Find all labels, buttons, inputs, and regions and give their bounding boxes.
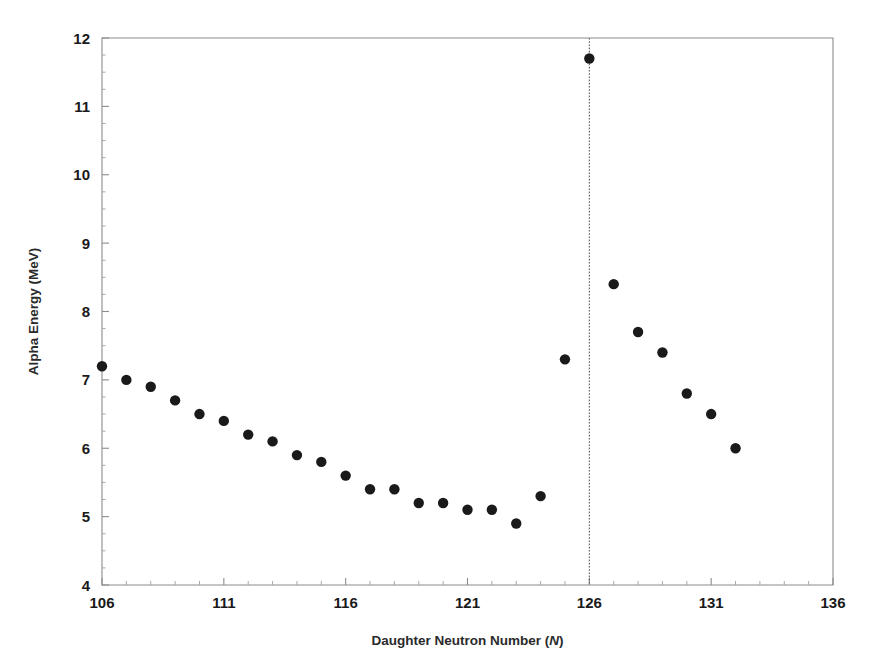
y-tick-label: 9 <box>82 235 90 252</box>
data-points-layer <box>97 53 741 528</box>
y-tick-label: 10 <box>73 166 90 183</box>
y-tick-labels: 456789101112 <box>73 30 90 594</box>
data-point <box>487 505 497 515</box>
y-axis-title: Alpha Energy (MeV) <box>26 248 41 376</box>
data-point <box>730 443 740 453</box>
data-point <box>414 498 424 508</box>
data-point <box>682 388 692 398</box>
data-point <box>365 484 375 494</box>
x-axis-title-prefix: Daughter Neutron Number ( <box>371 633 549 648</box>
y-tick-label: 4 <box>82 577 91 594</box>
y-tick-label: 5 <box>82 508 90 525</box>
x-axis-ticks <box>102 578 833 585</box>
x-axis-title: Daughter Neutron Number (N) <box>371 633 563 648</box>
x-axis-title-suffix: ) <box>559 633 564 648</box>
data-point <box>438 498 448 508</box>
x-tick-label: 121 <box>455 594 480 611</box>
y-tick-label: 12 <box>73 30 90 47</box>
data-point <box>194 409 204 419</box>
plot-border <box>102 38 833 585</box>
data-point <box>657 347 667 357</box>
alpha-energy-scatter-figure: 106111116121126131136 456789101112 Alpha… <box>0 0 885 672</box>
x-tick-label: 136 <box>820 594 845 611</box>
y-tick-label: 7 <box>82 371 90 388</box>
data-point <box>170 395 180 405</box>
data-point <box>560 354 570 364</box>
x-axis-title-symbol: N <box>549 633 559 648</box>
data-point <box>389 484 399 494</box>
data-point <box>121 375 131 385</box>
chart-canvas: 106111116121126131136 456789101112 Alpha… <box>0 0 885 672</box>
y-tick-label: 6 <box>82 440 90 457</box>
y-tick-label: 8 <box>82 303 90 320</box>
plot-frame <box>102 38 833 585</box>
data-point <box>146 382 156 392</box>
y-axis-ticks <box>102 38 109 585</box>
data-point <box>706 409 716 419</box>
data-point <box>219 416 229 426</box>
data-point <box>316 457 326 467</box>
y-tick-label: 11 <box>74 98 90 115</box>
data-point <box>535 491 545 501</box>
data-point <box>462 505 472 515</box>
data-point <box>609 279 619 289</box>
data-point <box>97 361 107 371</box>
x-tick-label: 111 <box>212 594 235 611</box>
data-point <box>584 53 594 63</box>
x-tick-labels: 106111116121126131136 <box>89 594 845 611</box>
data-point <box>292 450 302 460</box>
x-tick-label: 116 <box>334 594 358 611</box>
data-point <box>243 429 253 439</box>
x-tick-label: 106 <box>89 594 114 611</box>
data-point <box>511 518 521 528</box>
data-point <box>633 327 643 337</box>
x-tick-label: 131 <box>699 594 724 611</box>
data-point <box>267 436 277 446</box>
x-tick-label: 126 <box>577 594 602 611</box>
data-point <box>340 470 350 480</box>
